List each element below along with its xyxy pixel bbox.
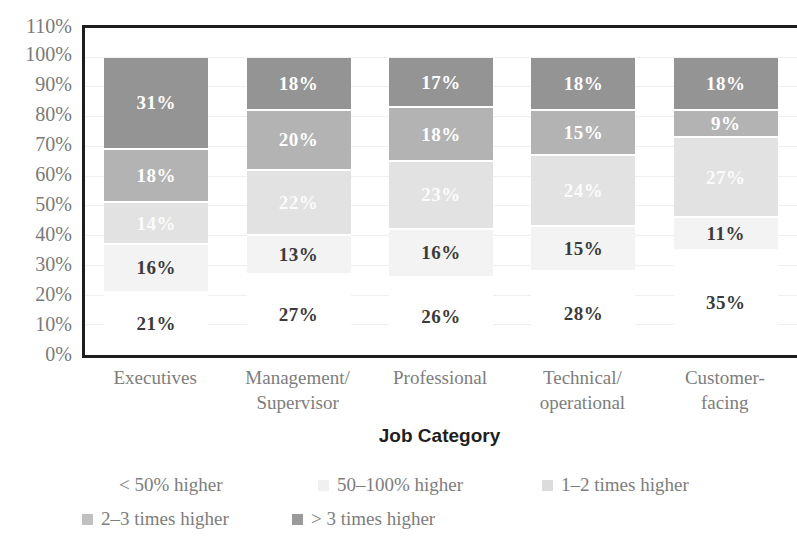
bar-segment-label: 15% [564,123,604,142]
bar-segment-label: 20% [279,130,319,149]
y-axis-tick: 50% [0,194,72,214]
bar-segment-label: 28% [564,304,604,323]
bar-stack: 18%15%24%15%28% [531,58,635,355]
legend-swatch-icon [542,480,553,491]
bar-segment-label: 27% [706,168,746,187]
legend-item[interactable]: 50–100% higher [318,474,463,496]
bar-segment[interactable]: 27% [247,275,351,355]
bar-segment[interactable]: 22% [247,171,351,236]
y-axis-tick: 90% [0,74,72,94]
plot-area: 31%18%14%16%21%18%20%22%13%27%17%18%23%1… [82,25,797,358]
bar-segment[interactable]: 11% [674,218,778,251]
x-axis-label: Technical/operational [507,365,657,415]
bar-segment-label: 24% [564,181,604,200]
bar-segment-label: 18% [279,74,319,93]
bar-segment-label: 16% [421,243,461,262]
y-axis-tick: 60% [0,164,72,184]
y-axis-tick: 100% [0,44,72,64]
bar-segment[interactable]: 18% [247,58,351,112]
legend-label: 50–100% higher [337,474,463,496]
bar-segment-label: 9% [711,114,741,133]
x-axis-label-line1: Executives [114,367,197,388]
bar-segment-label: 23% [421,185,461,204]
bar-segment-label: 27% [279,305,319,324]
y-axis-tick: 10% [0,314,72,334]
bar-segment[interactable]: 18% [104,150,208,204]
bar-segment[interactable]: 23% [389,162,493,230]
bar-segment[interactable]: 27% [674,138,778,218]
bar-segment-label: 35% [706,293,746,312]
x-axis-label-line1: Management/ [245,367,349,388]
bar-segment[interactable]: 9% [674,111,778,138]
y-axis: 110% 100% 90% 80% 70% 60% 50% 40% 30% 20… [0,16,76,364]
y-axis-tick: 80% [0,104,72,124]
bar-segment[interactable]: 26% [389,278,493,355]
x-axis-label-line2: Supervisor [223,390,373,415]
bar-segment-label: 17% [421,73,461,92]
bar-segment-label: 15% [564,239,604,258]
y-axis-tick: 110% [0,16,72,36]
bar-segment-label: 31% [136,93,176,112]
bar-segment[interactable]: 16% [389,230,493,278]
legend-item[interactable]: 1–2 times higher [542,474,689,496]
bar-segment[interactable]: 15% [531,227,635,272]
bar-segment[interactable]: 18% [674,58,778,112]
bar-segment[interactable]: 16% [104,245,208,293]
x-axis-label-line1: Technical/ [543,367,622,388]
legend-label: < 50% higher [119,474,223,496]
bar-segment[interactable]: 28% [531,272,635,355]
legend-label: > 3 times higher [311,508,435,530]
bar-segment[interactable]: 18% [389,108,493,162]
bar-segment-label: 18% [421,125,461,144]
x-axis-label-line2: operational [507,390,657,415]
bar-segment[interactable]: 20% [247,111,351,170]
x-axis-label: Professional [365,365,515,390]
legend-item[interactable]: < 50% higher [100,474,223,496]
bar-stack: 18%20%22%13%27% [247,58,351,355]
bar-segment-label: 22% [279,193,319,212]
bar-stack: 31%18%14%16%21% [104,58,208,355]
bar-segment[interactable]: 14% [104,203,208,245]
legend-swatch-icon [100,480,111,491]
y-axis-tick: 20% [0,284,72,304]
bar-segment-label: 11% [707,224,745,243]
stacked-bar-chart: 110% 100% 90% 80% 70% 60% 50% 40% 30% 20… [0,0,797,550]
x-axis-labels: ExecutivesManagement/SupervisorProfessio… [82,365,797,421]
legend-swatch-icon [318,480,329,491]
bar-segment-label: 18% [706,74,746,93]
bar-segment[interactable]: 24% [531,156,635,227]
y-axis-tick: 70% [0,134,72,154]
y-axis-tick: 40% [0,224,72,244]
legend-label: 1–2 times higher [561,474,689,496]
bars-layer: 31%18%14%16%21%18%20%22%13%27%17%18%23%1… [85,28,797,355]
legend-item[interactable]: 2–3 times higher [82,508,229,530]
bar-segment[interactable]: 31% [104,58,208,150]
legend-label: 2–3 times higher [101,508,229,530]
x-axis-label: Customer-facing [650,365,797,415]
x-axis-label-line1: Customer- [685,367,765,388]
bar-segment[interactable]: 15% [531,111,635,156]
x-axis-label: Executives [80,365,230,390]
x-axis-title: Job Category [82,425,797,447]
bar-segment-label: 16% [136,258,176,277]
bar-segment-label: 26% [421,307,461,326]
legend-item[interactable]: > 3 times higher [292,508,435,530]
y-axis-tick: 0% [0,344,72,364]
bar-stack: 17%18%23%16%26% [389,58,493,355]
chart-legend: < 50% higher50–100% higher1–2 times high… [82,474,797,544]
bar-segment[interactable]: 17% [389,58,493,109]
x-axis-label-line2: facing [650,390,797,415]
bar-segment-label: 18% [564,74,604,93]
bar-segment-label: 13% [279,245,319,264]
x-axis-label-line1: Professional [393,367,487,388]
bar-segment[interactable]: 13% [247,236,351,275]
bar-segment[interactable]: 21% [104,293,208,355]
legend-swatch-icon [292,514,303,525]
legend-swatch-icon [82,514,93,525]
bar-segment-label: 14% [136,214,176,233]
bar-segment[interactable]: 18% [531,58,635,112]
bar-segment-label: 21% [136,314,176,333]
y-axis-tick: 30% [0,254,72,274]
bar-segment[interactable]: 35% [674,251,778,355]
x-axis-label: Management/Supervisor [223,365,373,415]
